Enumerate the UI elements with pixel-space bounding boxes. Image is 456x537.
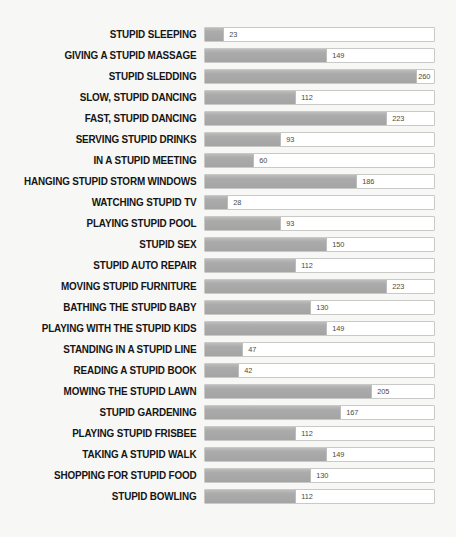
bar-category-label: PLAYING WITH THE STUPID KIDS	[12, 323, 204, 334]
bar-value-label: 93	[282, 217, 295, 230]
bar-category-label: STUPID SLEEPING	[12, 29, 204, 40]
bar-row: STUPID SLEDDING260	[0, 66, 456, 87]
bar-fill	[205, 49, 327, 62]
bar-category-label: MOWING THE STUPID LAWN	[12, 386, 204, 397]
bar-track: 150	[204, 237, 435, 252]
bar-row: STUPID SEX150	[0, 234, 456, 255]
bar-track: 223	[204, 111, 435, 126]
bar-fill	[205, 448, 327, 461]
bar-track: 93	[204, 132, 435, 147]
bar-track: 149	[204, 321, 435, 336]
bar-value-label: 42	[240, 364, 253, 377]
bar-row: FAST, STUPID DANCING223	[0, 108, 456, 129]
bar-row: PLAYING STUPID FRISBEE112	[0, 423, 456, 444]
bar-track: 112	[204, 258, 435, 273]
bar-fill	[205, 301, 311, 314]
bar-value-label: 23	[225, 28, 238, 41]
bar-value-label: 149	[328, 322, 345, 335]
bar-value-label: 112	[297, 259, 313, 272]
bar-value-label: 112	[297, 91, 313, 104]
bar-fill	[205, 175, 357, 188]
bar-value-label: 60	[255, 154, 268, 167]
bar-category-label: READING A STUPID BOOK	[12, 365, 204, 376]
bar-track: 149	[204, 48, 435, 63]
bar-row: READING A STUPID BOOK42	[0, 360, 456, 381]
bar-category-label: STUPID BOWLING	[12, 491, 204, 502]
bar-category-label: BATHING THE STUPID BABY	[12, 302, 204, 313]
bar-fill	[205, 343, 243, 356]
bar-category-label: PLAYING STUPID FRISBEE	[12, 428, 204, 439]
bar-fill	[205, 490, 296, 503]
bar-value-label: 186	[358, 175, 375, 188]
bar-fill	[205, 406, 341, 419]
bar-value-label: 167	[342, 406, 359, 419]
bar-row: TAKING A STUPID WALK149	[0, 444, 456, 465]
bar-category-label: SLOW, STUPID DANCING	[12, 92, 204, 103]
bar-category-label: SERVING STUPID DRINKS	[12, 134, 204, 145]
bar-fill	[205, 385, 372, 398]
bar-category-label: STUPID GARDENING	[12, 407, 204, 418]
bar-track: 47	[204, 342, 435, 357]
bar-value-label: 205	[373, 385, 390, 398]
bar-fill	[205, 154, 254, 167]
bar-row: HANGING STUPID STORM WINDOWS186	[0, 171, 456, 192]
bar-value-label: 28	[229, 196, 242, 209]
bar-value-label: 130	[312, 301, 329, 314]
bar-category-label: FAST, STUPID DANCING	[12, 113, 204, 124]
bar-row: STANDING IN A STUPID LINE47	[0, 339, 456, 360]
bar-row: STUPID SLEEPING23	[0, 24, 456, 45]
bar-category-label: STANDING IN A STUPID LINE	[12, 344, 204, 355]
bar-track: 42	[204, 363, 435, 378]
bar-category-label: IN A STUPID MEETING	[12, 155, 204, 166]
bar-category-label: SHOPPING FOR STUPID FOOD	[12, 470, 204, 481]
bar-row: MOVING STUPID FURNITURE223	[0, 276, 456, 297]
bar-track: 167	[204, 405, 435, 420]
bar-track: 28	[204, 195, 435, 210]
bar-category-label: MOVING STUPID FURNITURE	[12, 281, 204, 292]
bar-row: GIVING A STUPID MASSAGE149	[0, 45, 456, 66]
bar-fill	[205, 112, 387, 125]
bar-value-label: 93	[282, 133, 295, 146]
bar-track: 112	[204, 489, 435, 504]
bar-row: PLAYING WITH THE STUPID KIDS149	[0, 318, 456, 339]
bar-value-label: 223	[388, 280, 405, 293]
bar-row: WATCHING STUPID TV28	[0, 192, 456, 213]
bar-track: 223	[204, 279, 435, 294]
bar-row: STUPID BOWLING112	[0, 486, 456, 507]
bar-category-label: TAKING A STUPID WALK	[12, 449, 204, 460]
bar-fill	[205, 217, 281, 230]
bar-row: IN A STUPID MEETING60	[0, 150, 456, 171]
bar-row: SHOPPING FOR STUPID FOOD130	[0, 465, 456, 486]
bar-row: MOWING THE STUPID LAWN205	[0, 381, 456, 402]
bar-track: 205	[204, 384, 435, 399]
bar-fill	[205, 364, 239, 377]
bar-value-label: 260	[418, 70, 434, 83]
bar-category-label: GIVING A STUPID MASSAGE	[12, 50, 204, 61]
bar-fill	[205, 280, 387, 293]
bar-category-label: STUPID SLEDDING	[12, 71, 204, 82]
bar-category-label: HANGING STUPID STORM WINDOWS	[12, 176, 204, 187]
bar-fill	[205, 133, 281, 146]
bar-category-label: STUPID AUTO REPAIR	[12, 260, 204, 271]
bar-value-label: 149	[328, 448, 345, 461]
bar-fill	[205, 259, 296, 272]
horizontal-bar-chart: STUPID SLEEPING23GIVING A STUPID MASSAGE…	[0, 0, 456, 537]
bar-fill	[205, 28, 224, 41]
bar-value-label: 112	[297, 427, 313, 440]
bar-category-label: STUPID SEX	[12, 239, 204, 250]
bar-value-label: 149	[328, 49, 345, 62]
bar-row: STUPID GARDENING167	[0, 402, 456, 423]
bar-track: 23	[204, 27, 435, 42]
bar-value-label: 150	[328, 238, 345, 251]
bar-track: 186	[204, 174, 435, 189]
bar-value-label: 47	[244, 343, 257, 356]
bar-fill	[205, 427, 296, 440]
bar-fill	[205, 322, 327, 335]
bar-category-label: PLAYING STUPID POOL	[12, 218, 204, 229]
bar-row: STUPID AUTO REPAIR112	[0, 255, 456, 276]
bar-value-label: 130	[312, 469, 329, 482]
bar-track: 149	[204, 447, 435, 462]
bar-track: 93	[204, 216, 435, 231]
bar-value-label: 112	[297, 490, 313, 503]
bar-fill	[205, 70, 417, 83]
